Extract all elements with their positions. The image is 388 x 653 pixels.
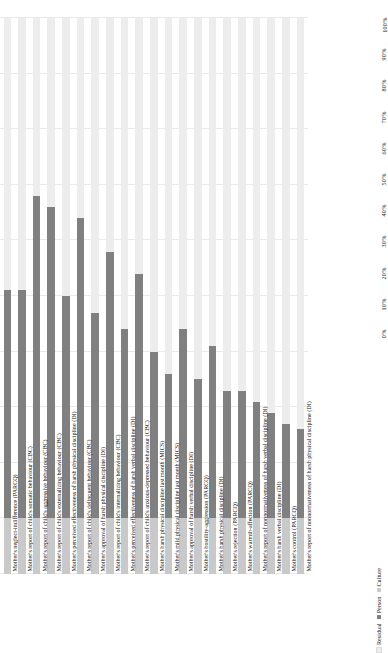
axis-tick-label: 90% — [381, 49, 388, 61]
bar-segment-residual[interactable] — [77, 18, 85, 218]
axis-tick-label: 40% — [381, 205, 388, 217]
axis-tick-label: 50% — [381, 174, 388, 186]
chart-legend: ResidualPersonCulture — [352, 358, 386, 568]
bar-segment-residual[interactable] — [209, 18, 217, 346]
category-label: Mother's harsh physical discipline (DI) — [218, 477, 225, 572]
bar-segment-residual[interactable] — [18, 18, 26, 290]
category-label: Mother's perceived effectiveness of hars… — [71, 412, 78, 572]
bar-segment-residual[interactable] — [179, 18, 187, 329]
axis-tick-label: 70% — [381, 111, 388, 123]
category-label: Mother's neglect-indifference (PARCQ) — [13, 475, 20, 572]
axis-tick-label: 60% — [381, 142, 388, 154]
bar-segment-residual[interactable] — [135, 18, 143, 274]
category-label: Mother's report of nonnormativeness of h… — [306, 402, 313, 572]
category-label: Mother's warmth-affection (PARCQ) — [247, 482, 254, 572]
category-label: Mother's hostility-aggression (PARCQ) — [203, 476, 210, 572]
category-label: Mother's approval of harsh physical disc… — [101, 447, 108, 572]
legend-label: Residual — [375, 623, 382, 645]
bar-segment-residual[interactable] — [33, 18, 41, 196]
axis-tick-labels: 0%10%20%30%40%50%60%70%80%90%100% — [350, 14, 386, 338]
legend-item[interactable]: Person — [375, 597, 382, 620]
axis-tick-label: 100% — [381, 18, 388, 33]
legend-label: Culture — [375, 568, 382, 587]
category-label: Mother's report of child's aggressive be… — [42, 440, 49, 572]
category-label: Mother's approval of harsh verbal discip… — [189, 452, 196, 572]
category-label: Mother's report of child's internalizing… — [115, 435, 122, 572]
category-label: Mother's report of nonnormativeness of h… — [262, 407, 269, 572]
bar-segment-residual[interactable] — [106, 18, 114, 252]
bar-segment-residual[interactable] — [150, 18, 158, 352]
category-label: Mother's report of child's delinquent be… — [86, 440, 93, 572]
bar-segment-residual[interactable] — [4, 18, 12, 290]
axis-tick-label: 20% — [381, 267, 388, 279]
bar-segment-residual[interactable] — [121, 18, 129, 329]
category-label: Mother's perceived effectiveness of hars… — [130, 417, 137, 572]
category-label: Mother's rejection (PARCQ) — [233, 502, 240, 572]
bar-segment-residual[interactable] — [194, 18, 202, 379]
category-label: Mother's control (PARCQ) — [291, 506, 298, 572]
axis-tick-label: 10% — [381, 298, 388, 310]
category-label: Mother's report of child's anxious-depre… — [145, 421, 152, 572]
axis-tick-label: 0% — [381, 330, 388, 339]
legend-swatch-residual — [376, 647, 382, 653]
category-label: Mother's report of child's somatic behav… — [27, 447, 34, 572]
legend-item[interactable]: Residual — [375, 623, 382, 653]
bar-segment-residual[interactable] — [165, 18, 173, 374]
category-label: Mother's mild physical discipline last m… — [174, 443, 181, 572]
bar-segment-residual[interactable] — [62, 18, 70, 296]
category-label: Mother's harsh verbal discipline (DI) — [277, 482, 284, 572]
axis-tick-label: 30% — [381, 236, 388, 248]
category-label: Mother's report of child's externalizing… — [57, 434, 64, 572]
bar-segment-residual[interactable] — [91, 18, 99, 313]
legend-swatch-culture — [377, 589, 381, 593]
category-label: Mother's harsh physical discipline last … — [159, 441, 166, 572]
legend-label: Person — [375, 597, 382, 614]
axis-tick-label: 80% — [381, 80, 388, 92]
category-labels: Mother's neglect-indifference (PARCQ)Mot… — [0, 334, 340, 574]
bar-segment-residual[interactable] — [47, 18, 55, 207]
legend-swatch-person — [377, 615, 381, 619]
legend-item[interactable]: Culture — [375, 568, 382, 593]
